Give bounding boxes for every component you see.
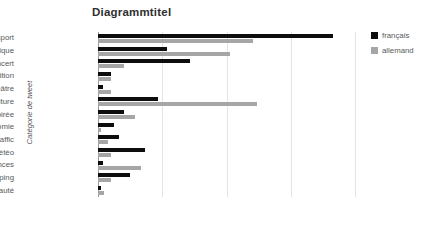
category-label: traffic [0, 135, 14, 144]
bar-français [98, 186, 101, 190]
bar-allemand [98, 178, 111, 182]
bar-row [98, 110, 355, 119]
bar-allemand [98, 191, 104, 195]
legend-label: allemand [382, 46, 414, 55]
category-label: beauté [0, 186, 14, 195]
bar-row [98, 148, 355, 157]
bar-français [98, 72, 111, 76]
bar-row [98, 85, 355, 94]
bar-row [98, 135, 355, 144]
bar-allemand [98, 90, 111, 94]
category-label: sport [0, 33, 14, 42]
category-label: shopping [0, 173, 14, 182]
legend-item[interactable]: français [371, 29, 414, 41]
bar-allemand [98, 153, 111, 157]
category-label: autre culture [0, 97, 14, 106]
bar-chart: Diagrammtitel Catégorie de tweet sportpo… [0, 0, 435, 232]
bar-français [98, 123, 114, 127]
bar-français [98, 59, 190, 63]
legend-item[interactable]: allemand [371, 44, 414, 56]
category-label: concert [0, 59, 14, 68]
bar-row [98, 186, 355, 195]
category-label: exposition [0, 71, 14, 80]
bar-row [98, 161, 355, 170]
category-label: soirée [0, 110, 14, 119]
bar-allemand [98, 115, 135, 119]
bar-allemand [98, 102, 257, 106]
bar-français [98, 47, 167, 51]
bar-français [98, 85, 103, 89]
bar-français [98, 161, 103, 165]
legend-label: français [382, 31, 409, 40]
bar-row [98, 123, 355, 132]
chart-title: Diagrammtitel [92, 6, 171, 18]
bar-allemand [98, 64, 124, 68]
plot-area: sportpolitiqueconcertexpositionthéâtreau… [98, 32, 355, 197]
bar-row [98, 59, 355, 68]
bar-français [98, 97, 158, 101]
legend-swatch-icon [371, 32, 378, 39]
legend-swatch-icon [371, 47, 378, 54]
bar-allemand [98, 166, 141, 170]
bar-row [98, 72, 355, 81]
bar-row [98, 97, 355, 106]
legend: françaisallemand [371, 29, 414, 59]
bar-français [98, 34, 333, 38]
bar-allemand [98, 52, 230, 56]
bar-français [98, 173, 130, 177]
bar-français [98, 110, 124, 114]
bar-row [98, 47, 355, 56]
category-label: théâtre [0, 84, 14, 93]
bar-allemand [98, 39, 253, 43]
bar-français [98, 148, 145, 152]
y-axis-title: Catégorie de tweet [25, 65, 34, 161]
category-label: politique [0, 46, 14, 55]
bar-row [98, 34, 355, 43]
category-label: gastronomie [0, 122, 14, 131]
bar-allemand [98, 140, 108, 144]
bar-row [98, 173, 355, 182]
bar-français [98, 135, 119, 139]
category-label: petites annonces [0, 160, 14, 169]
gridline [355, 32, 356, 197]
bar-allemand [98, 77, 111, 81]
bar-allemand [98, 128, 101, 132]
category-label: météo [0, 148, 14, 157]
